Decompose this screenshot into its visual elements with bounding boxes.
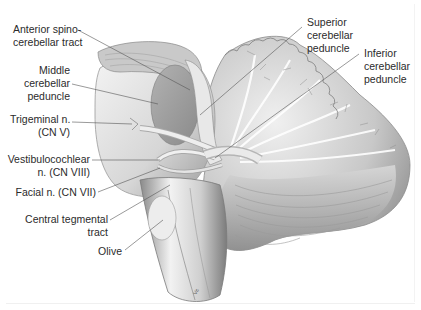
label-inferior-cerebellar-peduncle: Inferior cerebellar peduncle	[364, 47, 410, 86]
label-olive: Olive	[90, 245, 122, 258]
label-line: Superior	[307, 16, 353, 29]
label-line: peduncle	[307, 42, 353, 55]
label-line: peduncle	[20, 90, 70, 103]
label-line: Central tegmental	[20, 213, 108, 226]
label-line: n. (CN VIII)	[5, 166, 90, 179]
label-vestibulocochlear-nerve: Vestibulocochlear n. (CN VIII)	[5, 153, 90, 179]
label-line: Trigeminal n.	[10, 113, 70, 126]
label-line: cerebellar	[364, 60, 410, 73]
figure-bottom-border	[6, 303, 415, 304]
label-line: Facial n. (CN VII)	[5, 186, 96, 199]
pons	[95, 42, 222, 197]
olive-structure	[148, 196, 176, 240]
label-line: tract	[20, 226, 108, 239]
label-line: (CN V)	[10, 126, 70, 139]
label-line: cerebellar	[307, 29, 353, 42]
label-superior-cerebellar-peduncle: Superior cerebellar peduncle	[307, 16, 353, 55]
label-line: cerebellar	[20, 77, 70, 90]
figure-right-border	[414, 4, 415, 302]
label-line: Anterior spino-	[13, 23, 77, 36]
label-anterior-spinocerebellar-tract: Anterior spino- cerebellar tract	[13, 23, 77, 49]
medulla: Vc	[140, 178, 227, 302]
label-line: Vestibulocochlear	[5, 153, 90, 166]
label-line: peduncle	[364, 73, 410, 86]
label-trigeminal-nerve: Trigeminal n. (CN V)	[10, 113, 70, 139]
label-line: Olive	[90, 245, 122, 258]
anatomy-figure: Vc Anterior spin	[0, 0, 421, 310]
label-middle-cerebellar-peduncle: Middle cerebellar peduncle	[20, 64, 70, 103]
label-line: Inferior	[364, 47, 410, 60]
label-facial-nerve: Facial n. (CN VII)	[5, 186, 96, 199]
label-central-tegmental-tract: Central tegmental tract	[20, 213, 108, 239]
label-line: cerebellar tract	[13, 36, 77, 49]
label-line: Middle	[20, 64, 70, 77]
